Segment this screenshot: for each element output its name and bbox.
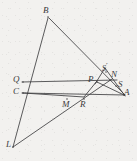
point-label-Sp: S′: [102, 62, 108, 73]
vertex-dot-N: [109, 79, 111, 81]
point-label-B: B: [43, 6, 49, 15]
point-label-Q: Q: [13, 75, 20, 84]
point-label-R: R: [80, 100, 86, 109]
point-label-S: S: [118, 80, 123, 89]
segment-L-N: [13, 79, 112, 147]
segment-layer: [13, 18, 125, 147]
point-label-L: L: [6, 140, 11, 149]
point-label-text-N: N: [111, 69, 117, 79]
point-label-text-M: M: [62, 99, 70, 109]
point-label-text-C: C: [13, 86, 19, 96]
point-label-text-Q: Q: [13, 74, 20, 84]
point-label-text-P: P: [88, 74, 94, 84]
point-label-C: C: [13, 87, 19, 96]
segment-B-A: [49, 18, 125, 95]
geometry-figure: BQCLMRPS′NSA: [0, 0, 137, 161]
vertex-dot-L: [12, 146, 14, 148]
point-label-text-R: R: [80, 99, 86, 109]
point-label-text-A: A: [124, 87, 130, 97]
vertex-dot-Q: [22, 81, 24, 83]
figure-canvas: [0, 0, 137, 161]
vertex-dot-P: [96, 81, 98, 83]
prime-mark-Sp: ′: [106, 61, 108, 69]
point-label-N: N: [111, 70, 117, 79]
vertex-dot-S: [115, 85, 117, 87]
segment-Q-S: [22, 80, 117, 82]
point-label-text-S: S: [118, 79, 123, 89]
point-label-text-L: L: [6, 139, 11, 149]
vertex-dot-C: [22, 92, 24, 94]
point-label-P: P: [88, 75, 94, 84]
point-label-A: A: [124, 88, 130, 97]
vertex-dot-B: [47, 16, 49, 18]
point-label-text-B: B: [43, 5, 49, 15]
point-label-M: M: [62, 100, 70, 109]
